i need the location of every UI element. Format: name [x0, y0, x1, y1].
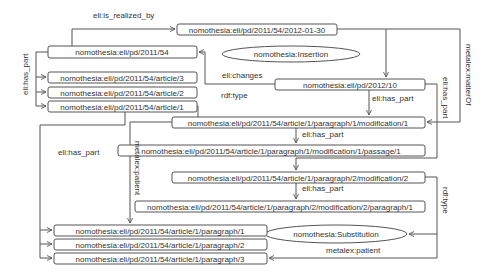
node-expression-2012-01-30: nomothesia:eli/pd/2011/54/2012-01-30	[177, 24, 337, 35]
label-patient-mod1: metalex:patient	[133, 141, 142, 196]
label-has-part-article1: eli:has_part	[58, 148, 100, 157]
label-has-part-2012: eli:has_part	[372, 94, 414, 103]
label-rdf-type-right: rdf:type	[441, 187, 450, 214]
svg-text:nomothesia:eli/pd/2011/54/arti: nomothesia:eli/pd/2011/54/article/1/para…	[188, 119, 409, 128]
label-matter-of: metalex:matterOf	[464, 44, 473, 106]
label-has-part-mod1: eli:has_part	[302, 130, 344, 139]
svg-text:nomothesia:eli/pd/2011/54/arti: nomothesia:eli/pd/2011/54/article/1/para…	[147, 203, 413, 212]
label-has-part-mod2: eli:has_part	[302, 184, 344, 193]
svg-text:nomothesia:eli/pd/2011/54/arti: nomothesia:eli/pd/2011/54/article/3	[60, 74, 184, 83]
node-work-2011-54: nomothesia:eli/pd/2011/54	[48, 46, 197, 58]
node-paragraph-3: nomothesia:eli/pd/2011/54/article/1/para…	[54, 253, 267, 264]
node-modification-1: nomothesia:eli/pd/2011/54/article/1/para…	[172, 117, 425, 128]
rdf-graph-diagram: nomothesia:eli/pd/2011/54/2012-01-30 nom…	[0, 0, 497, 275]
label-has-part-left: eli:has_part	[21, 53, 30, 95]
node-modification-2-paragraph-1: nomothesia:eli/pd/2011/54/article/1/para…	[135, 201, 425, 212]
label-patient-mod2: metalex:patient	[326, 246, 381, 255]
svg-text:nomothesia:eli/pd/2011/54/2012: nomothesia:eli/pd/2011/54/2012-01-30	[189, 26, 326, 35]
node-modification-2: nomothesia:eli/pd/2011/54/article/1/para…	[172, 172, 425, 183]
svg-text:nomothesia:eli/pd/2012/10: nomothesia:eli/pd/2012/10	[303, 81, 397, 90]
svg-text:nomothesia:Insertion: nomothesia:Insertion	[254, 50, 328, 59]
label-changes: eli:changes	[222, 71, 262, 80]
svg-text:nomothesia:eli/pd/2011/54/arti: nomothesia:eli/pd/2011/54/article/1/para…	[76, 255, 245, 264]
node-work-2012-10: nomothesia:eli/pd/2012/10	[275, 79, 425, 90]
svg-text:nomothesia:eli/pd/2011/54/arti: nomothesia:eli/pd/2011/54/article/2	[60, 89, 184, 98]
svg-text:nomothesia:eli/pd/2011/54/arti: nomothesia:eli/pd/2011/54/article/1/para…	[141, 147, 401, 156]
svg-text:nomothesia:eli/pd/2011/54/arti: nomothesia:eli/pd/2011/54/article/1/para…	[76, 241, 245, 250]
svg-text:nomothesia:Substitution: nomothesia:Substitution	[293, 230, 378, 239]
label-rdf-type-top: rdf:type	[221, 91, 248, 100]
node-paragraph-1: nomothesia:eli/pd/2011/54/article/1/para…	[54, 225, 267, 236]
node-passage-1: nomothesia:eli/pd/2011/54/article/1/para…	[118, 145, 425, 156]
svg-text:nomothesia:eli/pd/2011/54/arti: nomothesia:eli/pd/2011/54/article/1/para…	[76, 227, 245, 236]
node-article-3: nomothesia:eli/pd/2011/54/article/3	[48, 72, 197, 83]
node-article-1: nomothesia:eli/pd/2011/54/article/1	[48, 101, 197, 112]
svg-text:nomothesia:eli/pd/2011/54/arti: nomothesia:eli/pd/2011/54/article/1/para…	[188, 174, 409, 183]
label-has-part-right: eli:has_part	[441, 77, 450, 119]
edge-is-realized-by	[72, 29, 175, 46]
node-article-2: nomothesia:eli/pd/2011/54/article/2	[48, 87, 197, 98]
svg-text:nomothesia:eli/pd/2011/54: nomothesia:eli/pd/2011/54	[75, 48, 169, 57]
node-insertion: nomothesia:Insertion	[222, 46, 360, 62]
edge-has-part-articles	[36, 52, 48, 106]
node-substitution: nomothesia:Substitution	[265, 225, 407, 243]
label-is-realized-by: eli:is_realized_by	[93, 11, 154, 20]
svg-text:nomothesia:eli/pd/2011/54/arti: nomothesia:eli/pd/2011/54/article/1	[60, 103, 184, 112]
node-paragraph-2: nomothesia:eli/pd/2011/54/article/1/para…	[54, 239, 267, 250]
